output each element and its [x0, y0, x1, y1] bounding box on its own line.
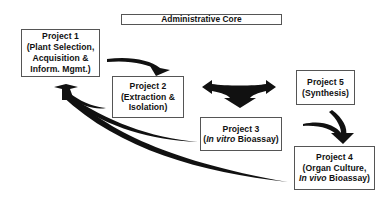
project-4-rest: Bioassay) — [327, 173, 371, 183]
arrow-p5-to-p4 — [303, 110, 354, 144]
administrative-core-box: Administrative Core — [121, 14, 282, 25]
project-3-rest: Bioassay) — [235, 134, 279, 144]
project-2-box: Project 2 (Extraction & Isolation) — [112, 76, 184, 118]
project-5-line-1: (Synthesis) — [302, 88, 349, 98]
project-4-line-2: In vivo Bioassay) — [299, 173, 370, 183]
project-4-italic: In vivo — [299, 173, 327, 183]
project-3-italic: In vitro — [206, 134, 235, 144]
arrow-three-way — [202, 80, 276, 108]
project-1-line-2: Acquisition & — [32, 53, 88, 64]
project-3-box: Project 3 (In vitro Bioassay) — [200, 117, 282, 151]
project-3-line-1: (In vitro Bioassay) — [203, 134, 278, 144]
project-3-title: Project 3 — [223, 124, 260, 134]
project-2-line-2: Isolation) — [129, 102, 168, 112]
project-1-box: Project 1 (Plant Selection, Acquisition … — [21, 29, 100, 77]
project-1-line-1: (Plant Selection, — [27, 42, 95, 53]
project-5-box: Project 5 (Synthesis) — [296, 70, 355, 105]
project-1-title: Project 1 — [42, 31, 79, 42]
project-2-line-1: (Extraction & — [121, 92, 175, 102]
arrow-p1-to-p2 — [107, 58, 170, 76]
project-5-title: Project 5 — [307, 77, 344, 87]
project-4-line-1: (Organ Culture, — [303, 163, 367, 173]
project-4-box: Project 4 (Organ Culture, In vivo Bioass… — [294, 146, 375, 190]
diagram-canvas: Administrative Core Project 1 (Plant Sel… — [0, 0, 391, 198]
project-1-line-3: Inform. Mgmt.) — [30, 64, 90, 75]
administrative-core-label: Administrative Core — [161, 15, 242, 24]
project-4-title: Project 4 — [316, 152, 353, 162]
project-2-title: Project 2 — [130, 81, 167, 91]
